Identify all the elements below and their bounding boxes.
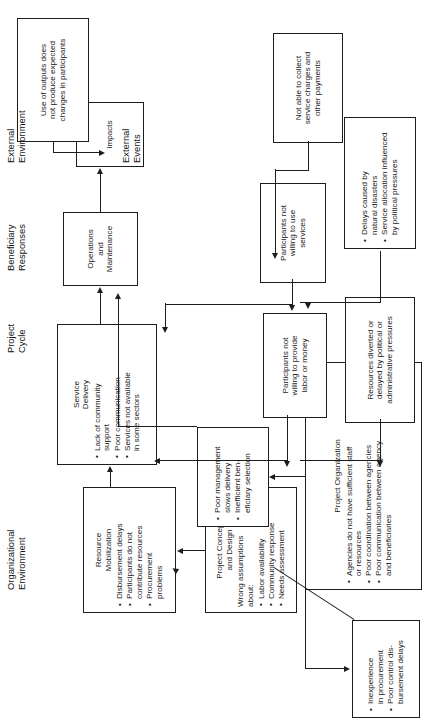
- connector-management-to-operations: [118, 299, 119, 427]
- stage-label-external-environment: External Environment: [5, 110, 28, 163]
- connector-management-up: [118, 426, 197, 427]
- node-participants-not-willing-services: Participants not willing to use services: [260, 183, 326, 283]
- arrowhead-organization-to-procurement: [344, 667, 350, 673]
- connector-diverted-to-resource-v: [300, 460, 382, 461]
- stage-label-beneficiary-responses: Beneficiary Responses: [5, 224, 28, 271]
- node-title: Operations and Maintenance: [86, 226, 115, 272]
- stage-label-project-cycle: Project Cycle: [5, 324, 28, 353]
- node-title: Use of outputs does not produce expected…: [39, 39, 68, 122]
- arrowhead-outputs-to-impacts: [99, 151, 105, 157]
- arrowhead-organization-to-management: [269, 475, 275, 481]
- connector-services-to-delivery-h: [292, 279, 293, 305]
- bullet-item: Lack of community support: [93, 330, 112, 451]
- bullet-item: Poor management slows delivery: [213, 433, 232, 513]
- connector-outputs-to-impacts-v2: [53, 152, 100, 153]
- arrowhead-labor-into-resource: [154, 459, 160, 465]
- node-title: Participants not willing to use services: [279, 205, 308, 261]
- node-not-able-to-collect-charges: Not able to collect service charges and …: [273, 33, 343, 143]
- node-bullets: Inexperience in procurement Poor control…: [366, 626, 405, 712]
- arrowhead-labor-to-resource: [284, 461, 290, 467]
- bullet-item: Inefficient ben- eficiary selection: [233, 433, 252, 513]
- node-participants-not-willing-labor: Participants not willing to provide labo…: [263, 313, 327, 418]
- connector-services-to-delivery-top: [165, 303, 166, 327]
- arrowhead-external-to-service: [305, 303, 311, 309]
- bullet-item: Disbursement delays: [115, 493, 125, 599]
- arrowhead-operations-to-impacts: [97, 168, 103, 174]
- connector-concept-to-resource: [183, 550, 205, 551]
- connector-services-to-delivery-v: [165, 304, 293, 305]
- arrowhead-diverted-to-resource: [377, 461, 383, 467]
- arrowhead-services-to-delivery: [289, 305, 295, 311]
- arrowhead-service-to-operations: [97, 287, 103, 293]
- connector-organization-to-procurement-h: [305, 579, 306, 669]
- arrowhead-management-to-operations: [115, 293, 121, 299]
- connector-organization-to-procurement-v: [305, 668, 345, 669]
- connector-organization-to-management: [275, 476, 305, 477]
- node-resource-mobilization: Resource Mobilization Disbursement delay…: [83, 487, 176, 613]
- bullet-item: Needs assessment: [277, 493, 287, 599]
- stage-label-organizational-environment: Organizational Environment: [5, 530, 28, 590]
- node-operations-and-maintenance: Operations and Maintenance: [63, 212, 138, 286]
- diagram-canvas-rotator: Project Concept and Design Wrong assumpt…: [0, 0, 427, 723]
- bullet-item: Poor control dis- bursement delays: [386, 626, 405, 704]
- connector-service-to-operations: [100, 292, 101, 324]
- node-title: Project Organization: [333, 368, 343, 584]
- node-title: Not able to collect service charges and …: [294, 52, 323, 124]
- node-title: Resource Mobilization: [94, 493, 113, 607]
- connector-external-to-service-h: [380, 251, 381, 303]
- connector-external-to-service-v: [300, 302, 380, 303]
- node-title: Service Delivery: [72, 330, 91, 459]
- flow-diagram: Project Concept and Design Wrong assumpt…: [0, 0, 427, 723]
- bullet-item: Service allocation influenced by politic…: [380, 123, 399, 235]
- node-service-delivery: Service Delivery Lack of community suppo…: [57, 324, 157, 465]
- node-resources-diverted: Resources diverted or delayed by politic…: [345, 297, 415, 423]
- node-title: Participants not willing to provide labo…: [281, 336, 310, 396]
- node-external-events: Delays caused by natural disasters Servi…: [344, 117, 416, 249]
- stage-label-external-events: External Events: [120, 129, 143, 163]
- node-bullets: Disbursement delays Participants do not …: [115, 493, 164, 607]
- arrowhead-collect-to-chain: [272, 253, 278, 259]
- bullet-item: Participants do not contribute resources: [125, 493, 144, 599]
- node-procurement-problems: Inexperience in procurement Poor control…: [352, 620, 420, 718]
- connector-diverted-to-resource-h: [380, 419, 381, 461]
- arrowhead-services-into-delivery: [162, 327, 168, 333]
- connector-collect-to-chain-v: [275, 170, 309, 171]
- connector-collect-to-chain-h: [308, 141, 309, 171]
- arrowhead-concept-to-resource: [177, 549, 183, 555]
- node-bullets: Poor management slows delivery Inefficie…: [213, 433, 252, 521]
- connector-resource-to-service: [110, 471, 111, 487]
- node-management-problems: Poor management slows delivery Inefficie…: [197, 427, 269, 527]
- bullet-item: Services not available in some sectors: [123, 330, 142, 451]
- bullet-item: Inexperience in procurement: [366, 626, 385, 704]
- bullet-item: Delays caused by natural disasters: [360, 123, 379, 235]
- connector-labor-to-resource-v: [160, 460, 288, 461]
- connector-labor-to-resource: [287, 415, 288, 461]
- node-title: Resources diverted or delayed by politic…: [366, 316, 395, 404]
- arrowhead-resource-to-service: [107, 466, 113, 472]
- node-title: Impacts: [105, 120, 115, 148]
- connector-operations-to-impacts: [100, 174, 101, 212]
- bullet-item: Procurement problems: [145, 493, 164, 599]
- node-bullets: Delays caused by natural disasters Servi…: [360, 123, 399, 243]
- connector-collect-upper-h: [275, 169, 276, 253]
